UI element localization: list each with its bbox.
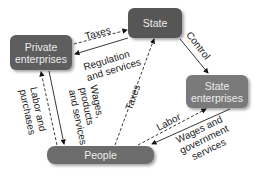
node-state: State (128, 8, 182, 38)
node-label: Private enterprises (10, 41, 72, 65)
node-label: State enterprises (186, 80, 248, 104)
node-people: People (47, 146, 154, 164)
node-state-enterprises: State enterprises (186, 75, 248, 108)
node-label: People (84, 149, 117, 161)
node-label: State (143, 17, 168, 29)
edge-wages-products (49, 71, 64, 144)
node-private-enterprises: Private enterprises (10, 35, 72, 70)
